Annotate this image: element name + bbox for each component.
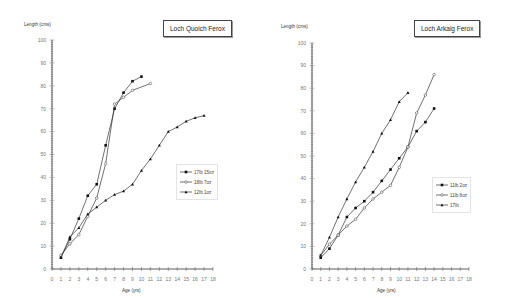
data-point [328, 247, 331, 250]
data-point [328, 243, 331, 246]
x-tick-label: 0 [51, 276, 54, 282]
legend-symbol-icon [185, 171, 188, 174]
y-tick-label: 0 [303, 266, 306, 272]
y-tick-label: 50 [40, 151, 46, 157]
legend-label: 17lb 15oz [194, 170, 214, 175]
legend-symbol-icon [441, 194, 444, 197]
data-point [433, 73, 436, 76]
data-point [389, 118, 392, 121]
data-point [363, 207, 366, 210]
data-point [363, 200, 366, 203]
data-point [113, 103, 116, 106]
data-point [122, 96, 125, 99]
data-point [415, 130, 418, 133]
y-tick-label: 90 [300, 62, 306, 68]
legend-item: 11lb 2oz [436, 180, 467, 190]
data-point [406, 91, 409, 94]
series-line [61, 77, 142, 258]
x-tick-label: 14 [174, 276, 180, 282]
y-tick-label: 20 [40, 220, 46, 226]
data-point [407, 146, 410, 149]
x-tick-label: 15 [440, 276, 446, 282]
legend-label: 18lb 7oz [194, 180, 211, 185]
y-tick-label: 90 [40, 60, 46, 66]
x-tick-label: 9 [389, 276, 392, 282]
x-tick-label: 17 [201, 276, 207, 282]
legend-label: 11lb 2oz [450, 183, 467, 188]
data-point [372, 150, 375, 153]
data-point [346, 216, 349, 219]
data-point [131, 80, 134, 83]
data-point [140, 75, 143, 78]
x-tick-label: 4 [345, 276, 348, 282]
x-tick-label: 10 [139, 276, 145, 282]
legend-marker-icon [436, 192, 448, 198]
data-point [354, 207, 357, 210]
y-tick-label: 0 [43, 266, 46, 272]
data-point [345, 197, 348, 200]
data-point [398, 166, 401, 169]
legend-marker-icon [436, 182, 448, 188]
x-tick-label: 15 [183, 276, 189, 282]
y-tick-label: 50 [300, 153, 306, 159]
x-tick-label: 7 [113, 276, 116, 282]
data-point [372, 198, 375, 201]
data-point [337, 234, 340, 237]
y-tick-label: 40 [300, 175, 306, 181]
y-tick-label: 80 [300, 85, 306, 91]
y-tick-label: 60 [40, 128, 46, 134]
data-point [104, 199, 107, 202]
legend-marker-icon [180, 169, 192, 175]
data-point [415, 112, 418, 115]
data-point [433, 107, 436, 110]
data-point [424, 121, 427, 124]
data-point [149, 82, 152, 85]
x-tick-label: 12 [414, 276, 420, 282]
x-tick-label: 3 [337, 276, 340, 282]
data-point [86, 194, 89, 197]
x-tick-label: 14 [431, 276, 437, 282]
x-tick-label: 0 [311, 276, 314, 282]
legend-item: 17lb [436, 200, 467, 210]
x-tick-label: 6 [363, 276, 366, 282]
data-point [346, 225, 349, 228]
x-tick-label: 9 [131, 276, 134, 282]
plot-area: 0102030405060708090100012345678910111213… [254, 0, 508, 298]
y-tick-label: 100 [38, 37, 47, 43]
plot-area: 0102030405060708090100012345678910111213… [0, 0, 254, 298]
x-tick-label: 8 [380, 276, 383, 282]
series-line [321, 93, 408, 256]
x-tick-label: 3 [77, 276, 80, 282]
x-tick-label: 6 [104, 276, 107, 282]
data-point [104, 144, 107, 147]
data-point [78, 217, 81, 220]
y-tick-label: 30 [40, 197, 46, 203]
data-point [398, 157, 401, 160]
x-tick-label: 18 [210, 276, 216, 282]
x-axis-label: Age (yrs) [377, 288, 396, 293]
legend-item: 17lb 15oz [180, 167, 214, 177]
legend-marker-icon [180, 189, 192, 195]
x-tick-label: 11 [405, 276, 410, 282]
x-tick-label: 16 [192, 276, 198, 282]
data-point [380, 180, 383, 183]
data-point [95, 183, 98, 186]
legend-marker-icon [180, 179, 192, 185]
x-tick-label: 4 [86, 276, 89, 282]
data-point [337, 215, 340, 218]
data-point [203, 114, 206, 117]
y-tick-label: 70 [300, 108, 306, 114]
data-point [328, 236, 331, 239]
y-tick-label: 10 [300, 243, 306, 249]
x-tick-label: 16 [449, 276, 455, 282]
legend-symbol-icon [185, 181, 188, 184]
y-tick-label: 80 [40, 83, 46, 89]
y-tick-label: 70 [40, 106, 46, 112]
legend-item: 18lb 7oz [180, 177, 214, 187]
data-point [122, 91, 125, 94]
y-tick-label: 40 [40, 174, 46, 180]
legend-marker-icon [436, 202, 448, 208]
x-tick-label: 2 [68, 276, 71, 282]
x-tick-label: 1 [60, 276, 63, 282]
x-tick-label: 12 [157, 276, 163, 282]
